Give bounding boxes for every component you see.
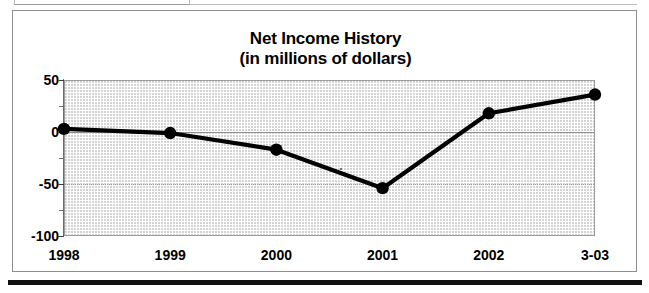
data-point-2000 [270, 143, 282, 155]
scan-speck [340, 168, 342, 170]
figure-bottom-rule [8, 280, 642, 285]
data-point-1999 [164, 127, 176, 139]
data-point-1998 [58, 123, 70, 135]
y-axis-label-0: 0 [15, 125, 59, 139]
data-series-layer [64, 80, 595, 236]
scan-artifact-top-border [14, 0, 190, 5]
x-axis-label-2000: 2000 [241, 247, 311, 263]
chart-title-main: Net Income History [250, 29, 401, 48]
x-axis-label-2001: 2001 [348, 247, 418, 263]
y-tick--100 [58, 236, 64, 237]
x-axis-label-1999: 1999 [135, 247, 205, 263]
chart-title: Net Income History (in millions of dolla… [13, 29, 638, 69]
y-axis-label--100: -100 [15, 229, 59, 243]
x-axis-label-1998: 1998 [29, 247, 99, 263]
data-point-2001 [376, 182, 388, 194]
net-income-line-svg [64, 80, 595, 236]
chart-subtitle: (in millions of dollars) [13, 49, 638, 69]
data-point-3-03 [589, 88, 601, 100]
x-axis-tick-labels: 199819992000200120023-03 [64, 247, 595, 269]
x-axis-label-2002: 2002 [454, 247, 524, 263]
chart-frame: Net Income History (in millions of dolla… [12, 10, 637, 272]
data-point-2002 [483, 107, 495, 119]
y-axis-tick-labels: 500-50-100 [13, 80, 59, 236]
y-axis-label-50: 50 [15, 73, 59, 87]
net-income-line [64, 95, 595, 189]
y-axis-label--50: -50 [15, 177, 59, 191]
scan-artifact-top-rule [190, 4, 637, 5]
x-axis-label-3-03: 3-03 [560, 247, 630, 263]
